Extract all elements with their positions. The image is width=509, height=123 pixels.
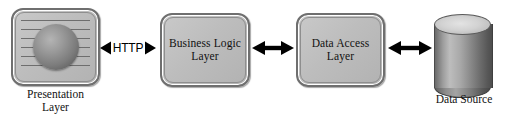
data-source-node bbox=[434, 14, 491, 89]
business-logic-layer-label: Business Logic Layer bbox=[169, 37, 241, 63]
cylinder-top bbox=[434, 14, 491, 35]
connector-business-logic-to-data-access bbox=[252, 39, 294, 57]
arrowhead-right-icon bbox=[144, 41, 156, 55]
architecture-diagram: Presentation Layer HTTP Business Logic L… bbox=[0, 0, 509, 123]
data-access-layer-node: Data Access Layer bbox=[296, 13, 385, 87]
double-arrow-icon bbox=[388, 40, 432, 56]
presentation-layer-node bbox=[11, 8, 100, 86]
presentation-layer-caption: Presentation Layer bbox=[6, 88, 105, 114]
connector-data-access-to-data-source bbox=[388, 39, 432, 57]
arrowhead-left-icon bbox=[100, 41, 112, 55]
connector-presentation-to-business-logic: HTTP bbox=[100, 39, 156, 57]
data-access-layer-label: Data Access Layer bbox=[312, 37, 370, 63]
connector-label-http: HTTP bbox=[113, 42, 144, 54]
business-logic-layer-node: Business Logic Layer bbox=[160, 13, 250, 87]
sphere-icon bbox=[33, 24, 79, 70]
data-source-caption: Data Source bbox=[424, 93, 504, 106]
double-arrow-icon bbox=[252, 40, 294, 56]
